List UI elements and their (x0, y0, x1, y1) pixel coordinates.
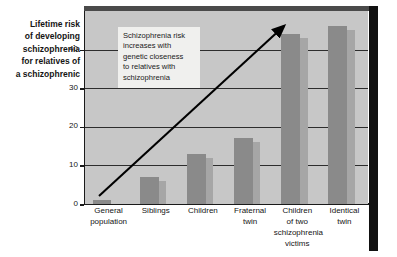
x-axis-label-4: Children of two schizophrenia victims (274, 205, 321, 249)
bar-side-face-3 (253, 142, 261, 204)
x-axis-label-2: Children (179, 205, 226, 216)
gridline-10 (85, 165, 368, 166)
bar-front-face-4 (281, 34, 300, 204)
gridline-20 (85, 127, 368, 128)
bar-front-face-3 (234, 138, 253, 204)
annotation-text-box: Schizophrenia risk increases with geneti… (118, 27, 200, 88)
bar-4 (281, 30, 307, 204)
x-axis-labels: General populationSiblingsChildrenFrater… (84, 205, 378, 255)
bar-front-face-0 (93, 200, 112, 204)
bar-2 (187, 150, 213, 204)
y-tick-label-40: 40 (54, 44, 78, 53)
x-axis-label-5: Identical twin (321, 205, 368, 227)
chart-screenshot: Lifetime risk of developing schizophreni… (0, 0, 397, 257)
bar-side-face-1 (159, 181, 167, 204)
x-axis-label-1: Siblings (132, 205, 179, 216)
y-tick-label-20: 20 (54, 121, 78, 130)
x-axis-label-0: General population (85, 205, 132, 227)
bar-front-face-2 (187, 154, 206, 204)
x-axis-label-3: Fraternal twin (227, 205, 274, 227)
bar-side-face-4 (300, 38, 308, 204)
gridline-30 (85, 88, 368, 89)
bar-front-face-1 (140, 177, 159, 204)
bar-front-face-5 (328, 26, 347, 204)
bar-side-face-5 (347, 30, 355, 204)
bar-5 (328, 22, 354, 204)
bar-1 (140, 173, 166, 204)
bar-0 (93, 196, 119, 204)
y-tick-label-30: 30 (54, 83, 78, 92)
y-tick-label-10: 10 (54, 160, 78, 169)
y-tick-label-0: 0 (54, 199, 78, 208)
bar-3 (234, 134, 260, 204)
bar-side-face-2 (206, 158, 214, 204)
